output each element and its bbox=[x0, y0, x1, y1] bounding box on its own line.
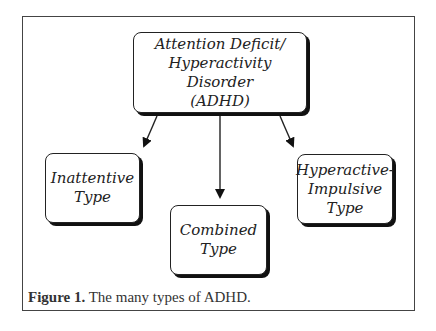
root-line-3: (ADHD) bbox=[134, 92, 306, 111]
hyperactive-line-2: Impulsive bbox=[296, 180, 394, 199]
caption-text: The many types of ADHD. bbox=[85, 289, 251, 305]
node-combined-type: Combined Type bbox=[170, 205, 267, 275]
caption-label: Figure 1. bbox=[28, 289, 85, 305]
hyperactive-line-1: Hyperactive- bbox=[296, 161, 394, 180]
combined-line-1: Combined bbox=[180, 221, 257, 240]
hyperactive-line-3: Type bbox=[296, 199, 394, 218]
inattentive-line-1: Inattentive bbox=[51, 169, 134, 188]
arrow-to-inattentive bbox=[144, 116, 157, 146]
node-hyperactive-impulsive-type: Hyperactive- Impulsive Type bbox=[297, 154, 393, 224]
root-node-adhd: Attention Deficit/ Hyperactivity Disorde… bbox=[133, 32, 307, 113]
root-line-1: Attention Deficit/ bbox=[134, 35, 306, 54]
root-line-2: Hyperactivity Disorder bbox=[134, 54, 306, 92]
node-inattentive-type: Inattentive Type bbox=[45, 153, 140, 223]
arrow-to-hyperactive bbox=[280, 116, 293, 146]
figure-caption: Figure 1. The many types of ADHD. bbox=[28, 289, 251, 306]
combined-line-2: Type bbox=[180, 240, 257, 259]
inattentive-line-2: Type bbox=[51, 188, 134, 207]
